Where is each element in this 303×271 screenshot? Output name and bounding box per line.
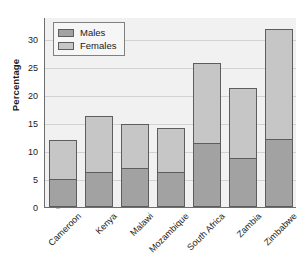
bar-segment-males[interactable] <box>157 172 184 207</box>
bar-group[interactable] <box>49 139 76 207</box>
bar-segment-males[interactable] <box>49 179 76 207</box>
x-axis-tick-label: Zimbabwe <box>263 211 299 247</box>
legend: Males Females <box>53 22 125 56</box>
x-axis-tick-label: South Africa <box>186 211 227 252</box>
y-axis-tick-label: 20 <box>16 91 38 101</box>
bar-segment-males[interactable] <box>193 143 220 207</box>
bar-group[interactable] <box>157 127 184 207</box>
x-axis-tick-label: Kenya <box>94 211 119 236</box>
y-axis-tick-label: 30 <box>16 35 38 45</box>
legend-label-females: Females <box>80 40 116 51</box>
y-axis-tick-label: 5 <box>16 175 38 185</box>
bar-segment-females[interactable] <box>229 88 256 159</box>
bar-segment-females[interactable] <box>121 124 148 170</box>
bar-segment-females[interactable] <box>49 140 76 180</box>
y-axis-tick-label: 0 <box>16 203 38 213</box>
bar-segment-males[interactable] <box>121 168 148 207</box>
bar-group[interactable] <box>121 123 148 207</box>
x-axis-tick-label: Cameroon <box>46 211 83 248</box>
bar-segment-males[interactable] <box>85 172 112 207</box>
y-axis-tick-label: 10 <box>16 147 38 157</box>
legend-swatch-females-icon <box>58 42 74 50</box>
y-axis-tick-label: 15 <box>16 119 38 129</box>
legend-label-males: Males <box>80 27 105 38</box>
bar-segment-males[interactable] <box>229 158 256 207</box>
legend-item-males: Males <box>58 26 116 39</box>
legend-item-females: Females <box>58 39 116 52</box>
legend-swatch-males-icon <box>58 29 74 37</box>
x-axis-tick-label: Zambia <box>235 211 263 239</box>
bar-segment-females[interactable] <box>157 128 184 173</box>
chart-figure: Percentage 051015202530 Males Females Ca… <box>0 0 303 271</box>
bar-segment-females[interactable] <box>85 116 112 174</box>
bar-group[interactable] <box>193 62 220 207</box>
bar-segment-males[interactable] <box>265 139 292 207</box>
bar-group[interactable] <box>85 115 112 207</box>
bar-group[interactable] <box>229 87 256 207</box>
bar-segment-females[interactable] <box>265 29 292 140</box>
bar-segment-females[interactable] <box>193 63 220 143</box>
x-axis-tick-labels: CameroonKenyaMalawiMozambiqueSouth Afric… <box>44 209 296 271</box>
x-axis-tick-label: Malawi <box>128 211 155 238</box>
y-axis-tick-label: 25 <box>16 63 38 73</box>
bar-group[interactable] <box>265 28 292 207</box>
y-axis-tick-labels: 051015202530 <box>16 18 38 208</box>
